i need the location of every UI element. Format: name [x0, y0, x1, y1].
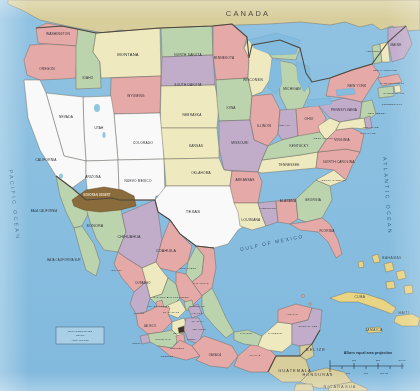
state-south-dakota[interactable] — [161, 55, 215, 86]
mx-state-label-chiapas: CHIAPAS — [250, 354, 261, 356]
country-label-canada: CANADA — [226, 9, 270, 18]
country-el-salvador-shape[interactable] — [294, 384, 314, 391]
state-label-north-carolina: NORTH CAROLINA — [323, 160, 355, 164]
state-arkansas[interactable] — [230, 171, 262, 203]
state-label-massachusetts: MASSACHUSETTS — [380, 82, 405, 85]
country-label-nicaragua: NICARAGUA — [323, 384, 356, 389]
state-label-nuevo-mexico: NUEVO MEXICO — [124, 179, 152, 183]
state-label-wisconsin: WISCONSIN — [243, 78, 264, 82]
state-label-utah: UTAH — [94, 126, 104, 130]
state-label-north-dakota: NORTH DAKOTA — [174, 53, 202, 57]
state-label-arizona: ARIZONA — [85, 175, 101, 179]
mx-state-label-mexico: MEXICO — [173, 332, 183, 334]
state-label-wyoming: WYOMING — [127, 94, 145, 98]
state-label-vermont: VERMONT — [366, 50, 380, 53]
scale-km-tick-2: 200 — [364, 372, 369, 375]
scale-mi-tick-2: 200 — [376, 359, 381, 362]
state-label-texas: TEXAS — [186, 209, 200, 214]
island-label-bahamas: BAHAMAS — [382, 256, 402, 260]
state-label-delaware: DELAWARE — [363, 126, 379, 129]
state-label-virginia: VIRGINIA — [334, 138, 350, 142]
mx-state-label-michoacan: MICHOACAN — [155, 338, 170, 340]
state-label-rhode-island: RHODE ISLAND — [383, 92, 404, 95]
mx-state-label-colima: COLIMA — [132, 342, 142, 344]
state-label-missouri: MISSOURI — [231, 141, 248, 145]
state-label-maine: MAINE — [390, 43, 401, 47]
mx-state-label-san-luis-potosi: SAN LUIS POTOSI — [167, 296, 189, 298]
mx-state-label-guanajuato: GUANAJUATO — [163, 311, 180, 313]
state-label-iowa: IOWA — [226, 106, 236, 110]
mx-state-label-sinaloa: SINALOA — [112, 269, 123, 271]
scale-mi-tick-3: 300 mi — [398, 359, 406, 362]
state-colorado[interactable] — [114, 113, 164, 160]
state-label-new-jersey: NEW JERSEY — [368, 112, 386, 115]
scale-title: Albers equal area projection — [344, 351, 392, 355]
mx-state-label-chihuahua: CHIHUAHUA — [117, 235, 141, 239]
state-label-new-york: NEW YORK — [348, 84, 368, 88]
scale-km-tick-1: 100 — [346, 372, 351, 375]
mx-state-label-nayarit: NAYARIT — [134, 312, 145, 314]
mx-state-label-tamaulipas: TAMAULIPAS — [193, 282, 209, 284]
mx-state-label-baja-california-sur: BAJA CALIFORNIA SUR — [47, 258, 81, 262]
state-label-south-carolina: SOUTH CAROLINA — [321, 179, 346, 182]
mx-state-label-yucatan: YUCATAN — [286, 313, 298, 315]
state-label-new-hampshire: NEW HAMPSHIRE — [373, 69, 397, 72]
mx-state-label-morelos: MORELOS — [161, 355, 174, 357]
state-label-indiana: INDIANA — [279, 124, 291, 127]
mx-state-label-hidalgo: HIDALGO — [191, 312, 202, 314]
state-label-alabama: ALABAMA — [280, 199, 297, 203]
mx-state-label-nuevo-leon: NUEVO LEON — [180, 267, 197, 269]
country-label-belize: BELIZE — [306, 347, 326, 352]
state-label-florida: FLORIDA — [319, 229, 335, 233]
highlight-label: SONORAN DESERT — [83, 193, 111, 197]
island-label-jamaica: JAMAICA — [365, 328, 383, 332]
state-label-california: CALIFORNIA — [35, 158, 57, 162]
mx-state-label-veracruz: VERACRUZ — [192, 328, 206, 330]
state-label-oregon: OREGON — [39, 67, 55, 71]
legend-line-1: REVILLAGIGEDO ISLANDS — [68, 330, 93, 332]
state-label-michigan: MICHIGAN — [283, 87, 301, 91]
mx-state-label-queretaro: QUERETARO — [189, 305, 205, 307]
mx-state-label-sonora: SONORA — [87, 224, 104, 228]
state-label-montana: MONTANA — [117, 52, 139, 57]
island-label-haiti: HAITI — [399, 311, 410, 315]
state-label-arkansas: ARKANSAS — [236, 178, 255, 182]
legend-line-3: APROX. LOCATION — [71, 339, 89, 341]
state-label-south-dakota: SOUTH DAKOTA — [174, 83, 202, 87]
state-label-georgia: GEORGIA — [305, 198, 322, 202]
state-nebraska[interactable] — [160, 85, 219, 128]
state-label-kentucky: KENTUCKY — [290, 144, 310, 148]
mx-state-label-guerrero: GUERRERO — [170, 347, 184, 349]
state-label-kansas: KANSAS — [189, 144, 203, 148]
mx-state-label-tabasco: TABASCO — [240, 332, 252, 334]
state-label-pennsylvania: PENNSYLVANIA — [331, 108, 358, 112]
state-label-minnesota: MINNESOTA — [214, 56, 235, 60]
mx-state-label-durango: DURANGO — [135, 281, 150, 285]
state-label-colorado: COLORADO — [133, 141, 153, 145]
state-label-idaho: IDAHO — [82, 76, 93, 80]
state-label-nevada: NEVADA — [59, 115, 74, 119]
mx-state-label-aguascalientes: AGUASCALIENTES — [147, 305, 170, 307]
mx-state-label-jalisco: JALISCO — [144, 324, 157, 328]
scale-km-tick-3: 300 km — [380, 372, 388, 375]
state-label-tennessee: TENNESSEE — [278, 163, 299, 167]
state-label-west-virginia: WEST VIRGINIA — [313, 137, 335, 140]
state-label-washington: WASHINGTON — [46, 32, 70, 36]
legend-box[interactable]: REVILLAGIGEDO ISLANDS (MEXICO) APROX. LO… — [56, 327, 104, 344]
state-label-illinois: ILLINOIS — [257, 124, 272, 128]
map-canvas: WASHINGTONOREGONIDAHOMONTANAWYOMINGNORTH… — [0, 0, 420, 391]
scale-mi-tick-1: 100 — [352, 359, 357, 362]
state-label-nebraska: NEBRASKA — [183, 113, 203, 117]
state-label-maryland: MARYLAND — [360, 132, 375, 135]
state-label-mississippi: MISSISSIPPI — [259, 207, 276, 210]
state-iowa[interactable] — [216, 78, 252, 121]
state-oregon[interactable] — [24, 44, 77, 80]
state-label-louisiana: LOUISIANA — [242, 218, 261, 222]
mx-state-label-baja-california: BAJA CALIFORNIA — [31, 209, 57, 213]
mx-state-label-puebla: PUEBLA — [187, 338, 197, 340]
political-map: WASHINGTONOREGONIDAHOMONTANAWYOMINGNORTH… — [0, 0, 420, 391]
state-label-connecticut: CONNECTICUT — [382, 103, 403, 106]
mx-state-label-tlaxcala: TLAXCALA — [192, 320, 205, 322]
mx-state-label-coahuila: COAHUILA — [156, 249, 176, 253]
mx-state-label-campeche: CAMPECHE — [268, 332, 282, 334]
